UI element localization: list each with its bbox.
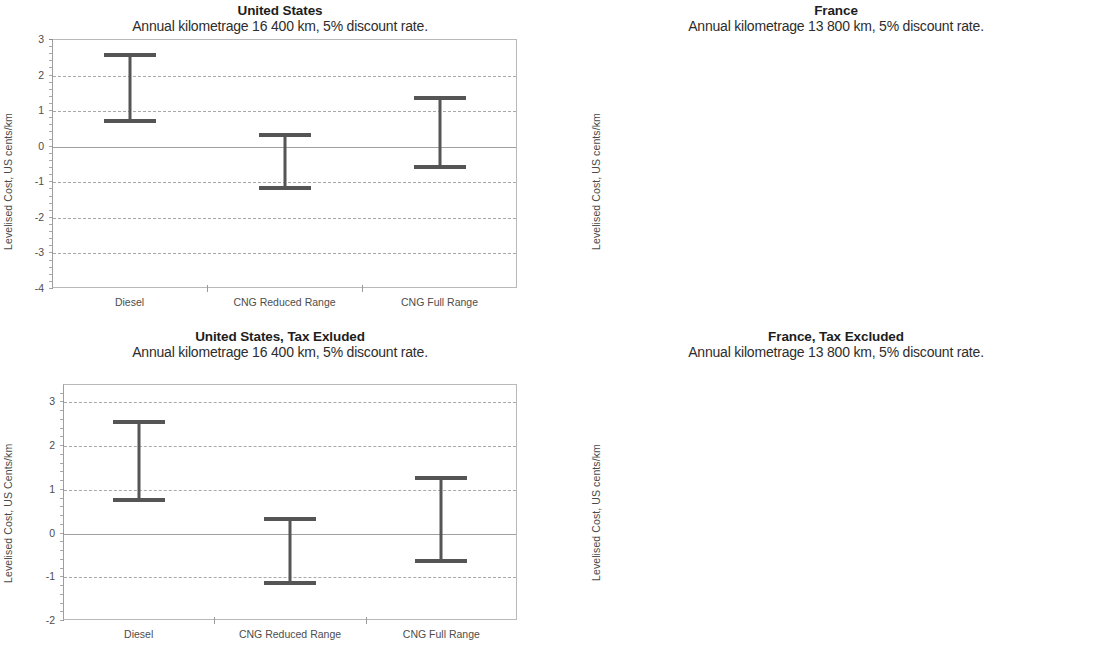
range-bar	[264, 517, 316, 585]
y-minor-tick	[60, 401, 63, 402]
y-minor-tick	[60, 594, 63, 595]
y-minor-tick	[60, 393, 63, 394]
y-minor-tick	[49, 217, 52, 218]
y-minor-tick	[60, 489, 63, 490]
y-minor-tick	[60, 585, 63, 586]
y-minor-tick	[49, 139, 52, 140]
y-minor-tick	[60, 419, 63, 420]
y-tick-label: -1	[29, 570, 55, 582]
y-minor-tick	[49, 267, 52, 268]
y-minor-tick	[49, 274, 52, 275]
range-bar	[415, 476, 467, 563]
y-tick-label: -2	[29, 614, 55, 626]
figure-grid: United States Annual kilometrage 16 400 …	[0, 0, 1112, 652]
y-minor-tick	[60, 410, 63, 411]
y-minor-tick	[49, 203, 52, 204]
y-minor-tick	[49, 224, 52, 225]
chart-panel-united-states: United States Annual kilometrage 16 400 …	[0, 0, 560, 326]
y-minor-tick	[49, 153, 52, 154]
range-bar-cap-high	[104, 53, 156, 57]
y-minor-tick	[49, 196, 52, 197]
chart-panel-france-tax-excluded: France, Tax Excluded Annual kilometrage …	[560, 326, 1112, 652]
y-tick-label: 0	[29, 527, 55, 539]
range-bar-cap-low	[104, 119, 156, 123]
range-bar-cap-high	[113, 420, 165, 424]
y-minor-tick	[49, 167, 52, 168]
x-category-label: CNG Reduced Range	[233, 296, 335, 308]
y-tick-label: -2	[18, 211, 44, 223]
range-bar-cap-low	[414, 165, 466, 169]
range-bar-cap-high	[414, 96, 466, 100]
range-bar-cap-high	[259, 133, 311, 137]
y-minor-tick	[49, 288, 52, 289]
y-minor-tick	[49, 231, 52, 232]
plot-area: 3210-1-2-3-4DieselCNG Reduced RangeCNG F…	[0, 0, 560, 326]
y-minor-tick	[49, 210, 52, 211]
y-tick-mark	[49, 39, 53, 40]
y-tick-label: 1	[29, 483, 55, 495]
y-tick-label: 1	[18, 104, 44, 116]
y-minor-tick	[49, 238, 52, 239]
y-minor-tick	[60, 471, 63, 472]
range-bar-cap-high	[415, 476, 467, 480]
y-minor-tick	[60, 515, 63, 516]
x-category-label: CNG Reduced Range	[239, 628, 341, 640]
gridline	[53, 253, 516, 254]
y-minor-tick	[49, 117, 52, 118]
range-bar	[259, 133, 311, 190]
y-minor-tick	[60, 445, 63, 446]
range-bar-stem	[283, 133, 286, 190]
x-tick-mark	[366, 617, 367, 624]
y-minor-tick	[49, 82, 52, 83]
y-tick-label: 3	[18, 33, 44, 45]
x-tick-mark	[214, 617, 215, 624]
y-minor-tick	[49, 245, 52, 246]
x-category-label: CNG Full Range	[401, 296, 478, 308]
y-minor-tick	[49, 181, 52, 182]
range-bar-stem	[128, 53, 131, 122]
y-minor-tick	[60, 428, 63, 429]
y-tick-label: 0	[18, 140, 44, 152]
x-category-label: Diesel	[115, 296, 144, 308]
y-minor-tick	[49, 46, 52, 47]
x-category-label: CNG Full Range	[403, 628, 480, 640]
y-minor-tick	[49, 96, 52, 97]
range-bar-cap-low	[113, 498, 165, 502]
y-tick-label: -3	[18, 246, 44, 258]
y-minor-tick	[60, 603, 63, 604]
plot-area: 3210-1-2-3-4DieselCNG Reduced RangeCNG F…	[560, 0, 1112, 326]
y-minor-tick	[49, 260, 52, 261]
y-minor-tick	[60, 480, 63, 481]
y-minor-tick	[60, 541, 63, 542]
y-minor-tick	[49, 252, 52, 253]
plot-area: 3210-1-2DieselCNG Reduced RangeCNG Full …	[560, 326, 1112, 652]
y-tick-label: 2	[29, 439, 55, 451]
y-minor-tick	[49, 67, 52, 68]
y-tick-label: -4	[18, 282, 44, 294]
plot-area: 3210-1-2DieselCNG Reduced RangeCNG Full …	[0, 326, 560, 652]
x-tick-mark	[362, 285, 363, 292]
range-bar-cap-low	[259, 186, 311, 190]
y-minor-tick	[49, 103, 52, 104]
range-bar-cap-low	[415, 559, 467, 563]
y-minor-tick	[60, 506, 63, 507]
chart-panel-france: France Annual kilometrage 13 800 km, 5% …	[560, 0, 1112, 326]
y-minor-tick	[60, 533, 63, 534]
y-minor-tick	[60, 550, 63, 551]
gridline	[53, 218, 516, 219]
y-minor-tick	[49, 188, 52, 189]
y-minor-tick	[60, 568, 63, 569]
y-minor-tick	[60, 436, 63, 437]
y-minor-tick	[49, 174, 52, 175]
y-minor-tick	[49, 160, 52, 161]
x-category-label: Diesel	[124, 628, 153, 640]
y-tick-label: -1	[18, 175, 44, 187]
y-minor-tick	[49, 281, 52, 282]
range-bar-stem	[289, 517, 292, 585]
y-minor-tick	[49, 75, 52, 76]
range-bar	[113, 420, 165, 502]
y-minor-tick	[49, 110, 52, 111]
range-bar	[414, 96, 466, 169]
y-minor-tick	[60, 620, 63, 621]
y-minor-tick	[49, 53, 52, 54]
